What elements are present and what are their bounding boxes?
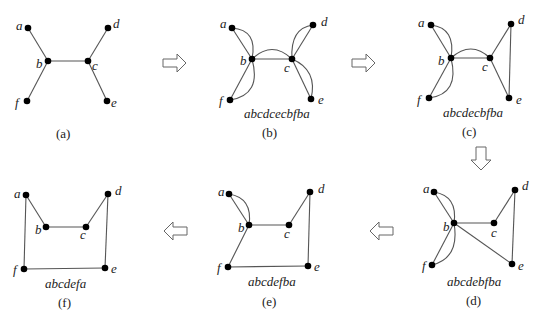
vertex-label-e: e xyxy=(111,261,117,276)
vertex-e xyxy=(506,95,513,102)
arrow-left-icon xyxy=(370,222,393,240)
vertex-b xyxy=(246,222,253,229)
vertex-f xyxy=(24,98,31,105)
panel-a: a b c d e f (a) xyxy=(15,16,120,141)
panel-d: a b c d e f abcdebfba (d) xyxy=(422,178,529,308)
vertex-b xyxy=(451,220,458,227)
vertex-c xyxy=(85,58,92,65)
vertex-b xyxy=(448,55,455,62)
vertex-a xyxy=(229,25,236,32)
arrow-left-icon xyxy=(164,222,187,240)
vertex-label-e: e xyxy=(516,92,522,107)
walk-label-e: abcdefba xyxy=(248,274,296,289)
vertex-label-d: d xyxy=(321,14,328,29)
vertex-f xyxy=(21,266,28,273)
vertex-label-c: c xyxy=(80,227,86,242)
vertex-d xyxy=(105,25,112,32)
vertex-label-f: f xyxy=(422,258,428,273)
vertex-d xyxy=(105,191,112,198)
panel-b: a b c d e f abcdcecbfba (b) xyxy=(219,14,328,140)
vertex-a xyxy=(226,191,233,198)
panel-f: a b c d e f abcdefa (f) xyxy=(13,183,122,310)
arrow-right-icon xyxy=(163,54,186,72)
panel-e: a b c d e f abcdefba (e) xyxy=(217,181,325,309)
vertex-label-a: a xyxy=(218,184,225,199)
vertex-d xyxy=(512,187,519,194)
vertex-label-c: c xyxy=(284,226,290,241)
vertex-label-c: c xyxy=(482,59,488,74)
panel-c: a b c d e f abcdecbfba (c) xyxy=(417,12,525,139)
vertex-b xyxy=(43,224,50,231)
vertex-label-f: f xyxy=(217,260,223,275)
diagram-canvas: a b c d e f (a) a b c d e f abcdcecbfba … xyxy=(0,0,541,335)
vertex-e xyxy=(308,96,315,103)
vertex-e xyxy=(102,265,109,272)
panel-caption-e: (e) xyxy=(262,294,276,309)
arrow-right-icon xyxy=(352,54,375,72)
vertex-label-e: e xyxy=(314,259,320,274)
walk-label-d: abcdebfba xyxy=(447,274,502,289)
walk-label-f: abcdefa xyxy=(45,276,87,291)
vertex-e xyxy=(509,261,516,268)
panel-caption-c: (c) xyxy=(462,124,476,139)
vertex-f xyxy=(227,97,234,104)
vertex-label-d: d xyxy=(115,183,122,198)
vertex-label-f: f xyxy=(13,262,19,277)
vertex-label-c: c xyxy=(92,58,98,73)
vertex-label-b: b xyxy=(36,56,43,71)
panel-caption-f: (f) xyxy=(58,295,71,310)
vertex-label-c: c xyxy=(284,60,290,75)
vertex-label-e: e xyxy=(111,95,117,110)
vertex-label-e: e xyxy=(318,92,324,107)
vertex-b xyxy=(45,58,52,65)
panel-caption-d: (d) xyxy=(466,293,481,308)
vertex-label-d: d xyxy=(518,12,525,27)
vertex-a xyxy=(23,192,30,199)
vertex-label-d: d xyxy=(318,181,325,196)
vertex-label-f: f xyxy=(15,95,21,110)
vertex-label-f: f xyxy=(417,92,423,107)
vertex-a xyxy=(428,22,435,29)
vertex-label-b: b xyxy=(438,53,445,68)
vertex-label-d: d xyxy=(522,178,529,193)
vertex-f xyxy=(426,95,433,102)
vertex-label-a: a xyxy=(418,15,425,30)
vertex-d xyxy=(310,22,317,29)
vertex-f xyxy=(225,264,232,271)
vertex-e xyxy=(104,98,111,105)
vertex-label-e: e xyxy=(518,258,524,273)
vertex-d xyxy=(508,21,515,28)
arrow-down-icon xyxy=(471,147,491,170)
vertex-b xyxy=(249,56,256,63)
vertex-label-a: a xyxy=(16,18,23,33)
vertex-label-b: b xyxy=(35,222,42,237)
vertex-label-a: a xyxy=(14,186,21,201)
vertex-label-a: a xyxy=(423,181,430,196)
vertex-label-c: c xyxy=(491,225,497,240)
vertex-d xyxy=(307,189,314,196)
walk-label-c: abcdecbfba xyxy=(443,105,503,120)
vertex-e xyxy=(305,263,312,270)
vertex-label-d: d xyxy=(113,16,120,31)
panel-caption-a: (a) xyxy=(56,126,70,141)
vertex-a xyxy=(431,189,438,196)
vertex-f xyxy=(429,262,436,269)
vertex-label-b: b xyxy=(238,220,245,235)
vertex-label-f: f xyxy=(219,93,225,108)
vertex-label-b: b xyxy=(443,219,450,234)
panel-caption-b: (b) xyxy=(262,125,277,140)
vertex-a xyxy=(25,25,32,32)
walk-label-b: abcdcecbfba xyxy=(244,106,310,121)
vertex-label-a: a xyxy=(220,16,227,31)
vertex-label-b: b xyxy=(240,53,247,68)
